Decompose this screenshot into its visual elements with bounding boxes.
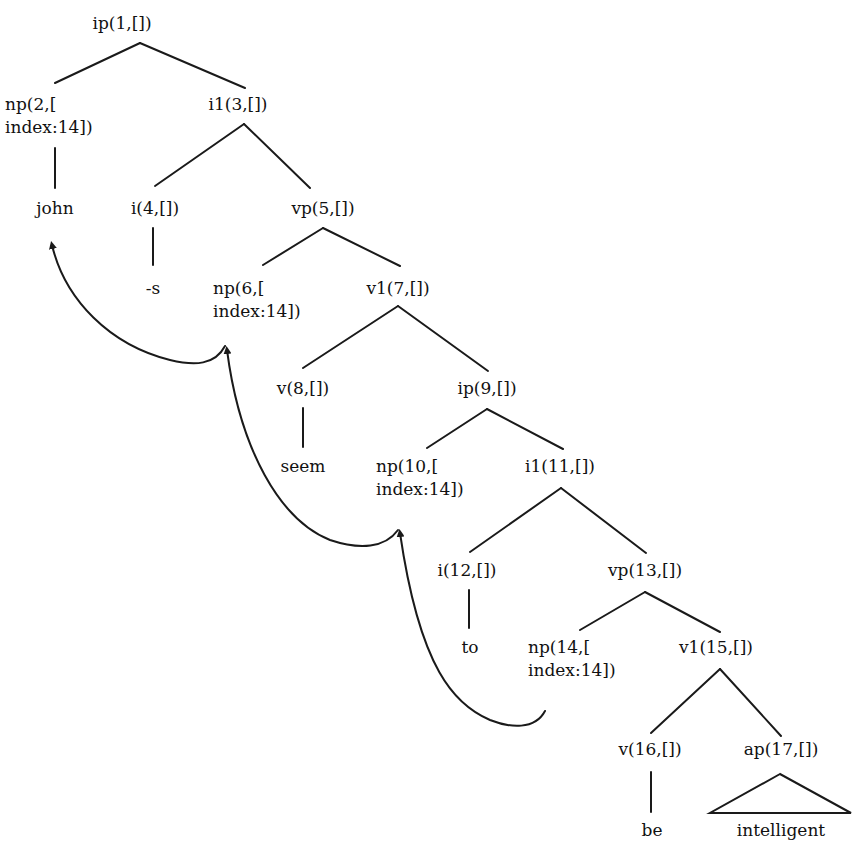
edge-v115-ap17: [720, 669, 781, 736]
node-v1-15: v1(15,[]): [679, 636, 753, 659]
node-i-12: i(12,[]): [437, 559, 496, 582]
syntax-tree-diagram: ip(1,[]) np(2,[ index:14]) i1(3,[]) john…: [0, 0, 859, 857]
leaf-be: be: [642, 819, 663, 842]
leaf-intelligent: intelligent: [737, 819, 825, 842]
node-np-14-line2: index:14]): [528, 659, 616, 682]
node-np-6-line1: np(6,[: [213, 277, 301, 300]
edge-vp5-np6: [263, 228, 323, 265]
edge-ip1-i13: [140, 43, 245, 88]
edge-vp13-v115: [645, 592, 720, 632]
node-np-2-line1: np(2,[: [5, 93, 93, 116]
edge-i111-i12: [470, 488, 561, 552]
edge-ip9-i111: [487, 409, 563, 449]
edge-i13-vp5: [244, 124, 310, 188]
leaf-seem: seem: [281, 455, 326, 478]
node-np-10: np(10,[ index:14]): [376, 455, 464, 501]
node-np-6-line2: index:14]): [213, 300, 301, 323]
leaf-s: -s: [146, 277, 160, 300]
node-np-14-line1: np(14,[: [528, 636, 616, 659]
edge-i111-vp13: [561, 488, 646, 553]
node-v1-7: v1(7,[]): [366, 277, 429, 300]
movement-arrow-np6-john: [52, 245, 225, 363]
leaf-to: to: [461, 636, 478, 659]
edge-v17-v8: [303, 306, 398, 368]
node-np-2-line2: index:14]): [5, 116, 93, 139]
leaf-john: john: [36, 197, 73, 220]
node-ip-9: ip(9,[]): [457, 377, 516, 400]
edge-ip9-np10: [427, 409, 487, 448]
edge-v115-v16: [651, 669, 720, 733]
node-np-2: np(2,[ index:14]): [5, 93, 93, 139]
node-i1-11: i1(11,[]): [525, 455, 595, 478]
node-np-14: np(14,[ index:14]): [528, 636, 616, 682]
edge-v17-ip9: [398, 306, 488, 371]
node-np-10-line1: np(10,[: [376, 455, 464, 478]
node-vp-5: vp(5,[]): [291, 197, 354, 220]
node-v-8: v(8,[]): [277, 377, 329, 400]
tree-edges: [0, 0, 859, 857]
node-vp-13: vp(13,[]): [608, 559, 682, 582]
edge-ip1-np2: [55, 43, 140, 83]
node-i-4: i(4,[]): [131, 197, 179, 220]
node-np-6: np(6,[ index:14]): [213, 277, 301, 323]
node-i1-3: i1(3,[]): [208, 93, 267, 116]
node-np-10-line2: index:14]): [376, 478, 464, 501]
edge-vp5-v17: [323, 228, 400, 266]
edge-vp13-np14: [580, 592, 645, 630]
edge-i13-i4: [155, 124, 244, 186]
node-ip-1: ip(1,[]): [92, 12, 151, 35]
edge-ap17-triangle: [710, 774, 851, 813]
node-v-16: v(16,[]): [618, 738, 681, 761]
node-ap-17: ap(17,[]): [744, 738, 819, 761]
